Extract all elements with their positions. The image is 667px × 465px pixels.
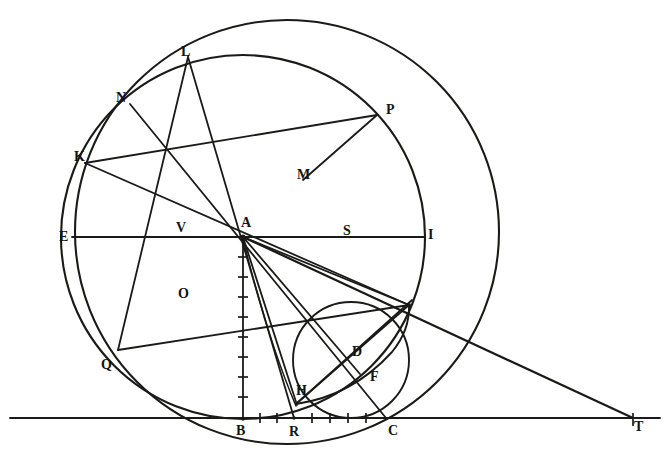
point-label-D: D — [352, 345, 362, 359]
point-label-T: T — [634, 420, 643, 434]
figure-canvas — [0, 0, 667, 465]
tick-mark-group — [238, 257, 633, 426]
point-label-C: C — [388, 424, 398, 438]
point-label-N: N — [116, 91, 126, 105]
point-label-S: S — [343, 224, 351, 238]
chord-N-O-C — [130, 104, 386, 418]
ray-A-H — [243, 237, 297, 405]
node-B — [241, 417, 245, 421]
diagonal-K-P-upper — [85, 115, 377, 163]
point-label-P: P — [386, 103, 395, 117]
point-label-E: E — [59, 230, 68, 244]
ray-A-G — [243, 237, 409, 305]
point-label-O: O — [178, 287, 189, 301]
node-R — [292, 416, 296, 420]
node-G — [407, 303, 411, 307]
outer-circle — [75, 20, 499, 444]
point-label-A: A — [241, 216, 251, 230]
point-label-Q: Q — [101, 358, 112, 372]
point-label-F: F — [370, 370, 379, 384]
geometric-figure: L N P K M E V A S I O Q D F H B R C T — [0, 0, 667, 465]
node-A — [241, 235, 246, 240]
point-label-H: H — [296, 384, 307, 398]
point-label-I: I — [428, 228, 433, 242]
point-label-K: K — [74, 150, 85, 164]
point-label-V: V — [176, 221, 186, 235]
point-label-B: B — [236, 424, 245, 438]
point-label-R: R — [289, 425, 299, 439]
point-label-L: L — [181, 45, 190, 59]
point-label-M: M — [297, 168, 310, 182]
